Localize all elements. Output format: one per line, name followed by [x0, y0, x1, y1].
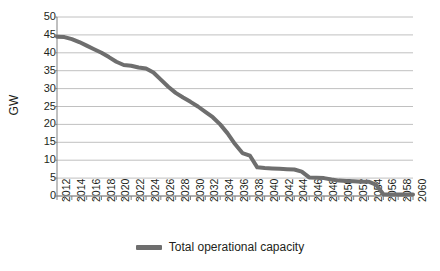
data-series-line: [57, 37, 413, 195]
chart-legend: Total operational capacity: [0, 240, 440, 254]
legend-swatch-total-operational-capacity: [136, 245, 162, 250]
chart-container: GW 05101520253035404550 2012201420162018…: [0, 0, 440, 271]
plot-area: [0, 0, 440, 271]
legend-label-total-operational-capacity: Total operational capacity: [169, 240, 304, 254]
